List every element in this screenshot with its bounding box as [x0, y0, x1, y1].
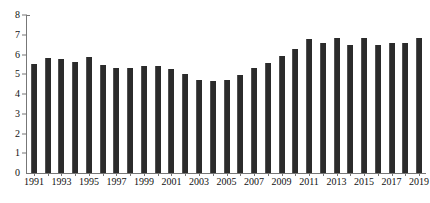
x-tick-mark: [378, 173, 379, 176]
bar: [334, 38, 340, 173]
x-tick-label: 2007: [244, 176, 264, 188]
x-tick-label: 1991: [24, 176, 44, 188]
x-tick-mark: [144, 173, 145, 176]
y-tick-mark: [22, 94, 27, 95]
x-tick-mark: [268, 173, 269, 176]
x-tick-label: 2005: [217, 176, 237, 188]
bar-chart: 012345678 199119931995199719992001200320…: [0, 0, 430, 203]
y-tick-mark: [22, 15, 27, 16]
x-tick-mark: [171, 173, 172, 176]
y-tick-mark: [22, 133, 27, 134]
x-tick-mark: [185, 173, 186, 176]
x-tick-mark: [103, 173, 104, 176]
x-tick-label: 2015: [354, 176, 374, 188]
plot-area: [27, 15, 426, 173]
y-tick-mark: [22, 74, 27, 75]
y-tick-label: 7: [15, 30, 20, 40]
x-tick-mark: [199, 173, 200, 176]
bar: [389, 43, 395, 173]
x-tick-label: 2013: [327, 176, 347, 188]
x-tick-mark: [240, 173, 241, 176]
y-tick-label: 1: [15, 148, 20, 158]
y-tick-label: 3: [15, 109, 20, 119]
bar: [72, 62, 78, 173]
bar: [127, 68, 133, 173]
bar: [196, 80, 202, 173]
x-tick-label: 2017: [382, 176, 402, 188]
bar: [265, 63, 271, 173]
x-tick-mark: [130, 173, 131, 176]
y-tick-label: 2: [15, 129, 20, 139]
y-tick-mark: [22, 54, 27, 55]
y-tick-mark: [22, 113, 27, 114]
x-tick-mark: [392, 173, 393, 176]
bar: [416, 38, 422, 173]
x-tick-mark: [61, 173, 62, 176]
bar: [100, 65, 106, 173]
x-tick-mark: [405, 173, 406, 176]
bar: [361, 38, 367, 173]
y-tick-label: 8: [15, 10, 20, 20]
x-tick-mark: [323, 173, 324, 176]
x-tick-mark: [419, 173, 420, 176]
x-tick-mark: [309, 173, 310, 176]
x-tick-label: 1999: [134, 176, 154, 188]
bar: [182, 74, 188, 173]
x-tick-mark: [116, 173, 117, 176]
bar: [31, 64, 37, 173]
x-tick-label: 2011: [299, 176, 319, 188]
x-tick-mark: [89, 173, 90, 176]
x-tick-label: 2019: [409, 176, 429, 188]
x-tick-mark: [34, 173, 35, 176]
bar: [292, 49, 298, 173]
x-tick-mark: [350, 173, 351, 176]
x-tick-mark: [295, 173, 296, 176]
x-tick-label: 1993: [51, 176, 71, 188]
bar: [347, 45, 353, 173]
x-tick-label: 2003: [189, 176, 209, 188]
bar: [58, 59, 64, 173]
y-tick-label: 6: [15, 50, 20, 60]
x-tick-label: 1997: [106, 176, 126, 188]
bar: [141, 66, 147, 173]
y-axis-labels: 012345678: [0, 0, 26, 203]
bar: [113, 68, 119, 173]
x-tick-label: 2001: [161, 176, 181, 188]
x-tick-mark: [227, 173, 228, 176]
x-tick-mark: [254, 173, 255, 176]
y-tick-label: 5: [15, 69, 20, 79]
bar: [251, 68, 257, 173]
bar: [155, 66, 161, 173]
bar: [279, 56, 285, 174]
bar: [320, 43, 326, 173]
bar: [210, 81, 216, 173]
x-tick-mark: [213, 173, 214, 176]
bar: [306, 39, 312, 173]
x-tick-mark: [158, 173, 159, 176]
x-tick-mark: [282, 173, 283, 176]
x-tick-label: 2009: [272, 176, 292, 188]
bar: [402, 43, 408, 173]
x-tick-mark: [75, 173, 76, 176]
y-tick-mark: [22, 153, 27, 154]
bar: [237, 75, 243, 173]
bar: [375, 45, 381, 173]
x-tick-label: 1995: [79, 176, 99, 188]
bar: [86, 57, 92, 173]
x-axis-labels: 1991199319951997199920012003200520072009…: [0, 176, 430, 203]
bar: [224, 80, 230, 173]
bar: [45, 58, 51, 173]
x-tick-mark: [364, 173, 365, 176]
bar: [168, 69, 174, 173]
y-tick-mark: [22, 34, 27, 35]
y-tick-label: 4: [15, 89, 20, 99]
x-tick-mark: [337, 173, 338, 176]
x-tick-mark: [48, 173, 49, 176]
